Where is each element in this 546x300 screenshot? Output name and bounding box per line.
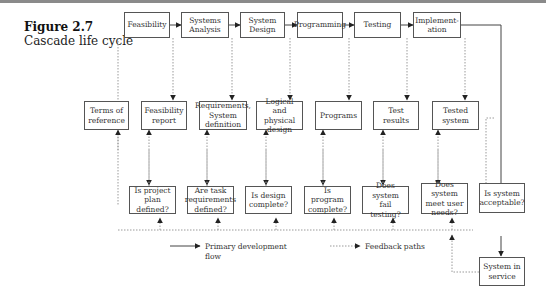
check-system-acceptable: Is system acceptable? <box>479 183 525 213</box>
check-system-fail-testing: Does system fail testing? <box>362 186 409 214</box>
deliverable-feasibility-report: Feasibility report <box>141 101 187 130</box>
deliverable-tested-system: Tested system <box>432 101 479 130</box>
check-project-plan-defined: Is project plan defined? <box>129 186 176 214</box>
phase-system-design: System Design <box>240 12 285 38</box>
deliverable-requirements: Requirements, System definition <box>199 101 247 130</box>
deliverable-logical-physical-design: Logical and physical design <box>256 101 303 130</box>
deliverable-test-results: Test results <box>373 101 419 130</box>
check-program-complete: Is program complete? <box>304 186 351 214</box>
phase-programming: Programming <box>297 12 343 38</box>
deliverable-terms-of-reference: Terms of reference <box>84 101 129 130</box>
phase-feasibility: Feasibility <box>124 12 170 38</box>
check-design-complete: Is design complete? <box>245 186 292 214</box>
check-task-requirements-defined: Are task requirements defined? <box>187 186 234 214</box>
phase-testing: Testing <box>354 12 401 38</box>
deliverable-programs: Programs <box>315 101 362 130</box>
check-meet-user-needs: Does system meet user needs? <box>421 183 468 214</box>
final-system-in-service: System in service <box>479 257 525 286</box>
phase-systems-analysis: Systems Analysis <box>181 12 229 38</box>
phase-implementation: Implement- ation <box>413 12 461 38</box>
legend-primary-flow: Primary development flow <box>205 242 287 261</box>
legend-feedback-paths: Feedback paths <box>365 242 425 252</box>
